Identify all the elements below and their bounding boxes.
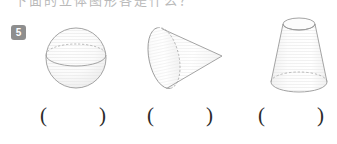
answer-slot-cone[interactable]: ( ): [147, 100, 213, 130]
open-paren-icon: (: [147, 105, 154, 126]
close-paren-icon: ): [317, 105, 324, 126]
close-paren-icon: ): [206, 105, 213, 126]
figure-cone: [136, 10, 236, 98]
worksheet-page: 下面的立体图形各是什么？ 5: [0, 0, 337, 144]
frustum-icon: [248, 10, 337, 98]
close-paren-icon: ): [99, 105, 106, 126]
open-paren-icon: (: [258, 105, 265, 126]
answer-slot-frustum[interactable]: ( ): [258, 100, 324, 130]
clipped-header-text-row: 下面的立体图形各是什么？: [0, 0, 337, 7]
answer-row: ( ) ( ) ( ): [0, 100, 337, 134]
answer-slot-sphere[interactable]: ( ): [40, 100, 106, 130]
cone-icon: [136, 10, 236, 98]
sphere-icon: [32, 10, 127, 98]
figure-sphere: [32, 10, 127, 98]
clipped-header-text: 下面的立体图形各是什么？: [14, 0, 194, 7]
figure-row: [0, 10, 337, 98]
figure-frustum: [248, 10, 337, 98]
open-paren-icon: (: [40, 105, 47, 126]
